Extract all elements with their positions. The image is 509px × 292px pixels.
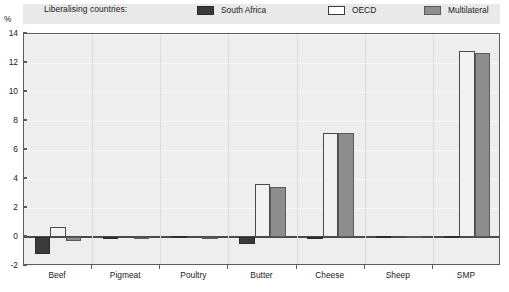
gridline (24, 92, 499, 93)
y-axis-tick-label: 10 (2, 86, 18, 96)
legend-swatch-south-africa-icon (197, 6, 214, 15)
y-axis-tick-mark (23, 32, 27, 33)
legend-entry-south-africa: South Africa (197, 4, 266, 16)
bar-pigmeat-multilateral (134, 237, 150, 239)
bar-beef-oecd (50, 227, 66, 237)
y-axis-tick-label: 6 (2, 144, 18, 154)
x-axis-tick-mark (364, 265, 365, 269)
y-axis-tick-mark (23, 206, 27, 207)
y-axis-tick-mark (23, 119, 27, 120)
category-separator (92, 34, 93, 264)
gridline (24, 121, 499, 122)
plot-area (23, 33, 500, 265)
category-separator (297, 34, 298, 264)
x-axis-tick-mark (432, 265, 433, 269)
category-separator (228, 34, 229, 264)
gridline (24, 34, 499, 35)
gridline (24, 150, 499, 151)
y-axis-tick-label: 14 (2, 28, 18, 38)
bar-beef-multilateral (66, 237, 82, 241)
gridline (24, 266, 499, 267)
legend-swatch-oecd-icon (328, 6, 345, 15)
bar-poultry-oecd (187, 236, 203, 238)
legend-label-multilateral: Multilateral (448, 6, 489, 15)
y-axis-tick-mark (23, 235, 27, 236)
bar-cheese-multilateral (338, 133, 354, 237)
bar-smp-multilateral (475, 53, 491, 237)
bar-cheese-oecd (323, 133, 339, 237)
x-axis-category-label: Cheese (296, 270, 364, 280)
y-axis-tick-mark (23, 264, 27, 265)
x-axis-category-label: Poultry (159, 270, 227, 280)
bar-cheese-south-africa (307, 237, 323, 239)
bar-pigmeat-south-africa (103, 237, 119, 239)
category-separator (365, 34, 366, 264)
y-axis-tick-label: 0 (2, 231, 18, 241)
legend-title: Liberalising countries: (44, 4, 127, 14)
legend-label-oecd: OECD (352, 6, 376, 15)
category-separator (433, 34, 434, 264)
y-axis-tick-mark (23, 177, 27, 178)
bar-butter-multilateral (270, 187, 286, 237)
y-axis-tick-label: -2 (2, 260, 18, 270)
bar-beef-south-africa (35, 237, 51, 254)
x-axis-category-label: Butter (227, 270, 295, 280)
y-axis-tick-mark (23, 90, 27, 91)
bar-pigmeat-oecd (118, 236, 134, 238)
bar-butter-south-africa (239, 237, 255, 244)
x-axis-tick-mark (159, 265, 160, 269)
bar-butter-oecd (255, 184, 271, 237)
y-axis-tick-mark (23, 148, 27, 149)
y-axis-tick-label: 2 (2, 202, 18, 212)
gridline (24, 63, 499, 64)
y-axis-tick-label: 8 (2, 115, 18, 125)
legend-swatch-multilateral-icon (424, 6, 441, 15)
bar-sheep-multilateral (407, 236, 423, 238)
bar-smp-south-africa (444, 236, 460, 238)
x-axis-tick-mark (296, 265, 297, 269)
x-axis-category-label: Sheep (364, 270, 432, 280)
y-axis-tick-label: 12 (2, 57, 18, 67)
legend-label-south-africa: South Africa (221, 6, 266, 15)
bar-sheep-south-africa (376, 236, 392, 238)
legend-entry-oecd: OECD (328, 4, 376, 16)
bar-smp-oecd (459, 51, 475, 237)
category-separator (160, 34, 161, 264)
bar-poultry-south-africa (171, 236, 187, 238)
legend-entry-multilateral: Multilateral (424, 4, 489, 16)
x-axis-tick-mark (91, 265, 92, 269)
x-axis-tick-mark (227, 265, 228, 269)
x-axis-category-label: Pigmeat (91, 270, 159, 280)
bar-sheep-oecd (391, 236, 407, 238)
x-axis-category-label: SMP (432, 270, 500, 280)
bar-poultry-multilateral (202, 237, 218, 239)
y-axis-unit-label: % (4, 14, 11, 24)
y-axis-tick-mark (23, 61, 27, 62)
x-axis-category-label: Beef (23, 270, 91, 280)
y-axis-tick-label: 4 (2, 173, 18, 183)
gridline (24, 179, 499, 180)
